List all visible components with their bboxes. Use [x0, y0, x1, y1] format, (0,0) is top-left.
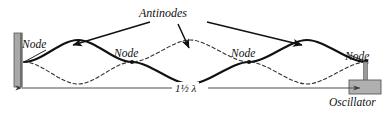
- label-oscillator: Oscillator: [329, 96, 376, 108]
- standing-wave-diagram: Antinodes Node Node Node Node Oscillator…: [0, 0, 389, 113]
- node-marker: [247, 60, 251, 64]
- oscillator-stem: [363, 62, 367, 82]
- antinode-arrow-right: [207, 22, 302, 45]
- antinode-arrow-middle: [178, 24, 189, 48]
- wave-curve-dashed: [24, 40, 366, 84]
- label-node-right: Node: [345, 50, 369, 62]
- oscillator-body: [349, 80, 381, 94]
- antinode-arrow-left: [73, 22, 150, 45]
- label-node-mid-left: Node: [114, 47, 138, 59]
- label-wavelength: 1½ λ: [172, 82, 199, 94]
- label-antinodes: Antinodes: [139, 6, 187, 21]
- wave-curve-solid: [24, 40, 366, 84]
- label-node-mid-right: Node: [231, 47, 255, 59]
- node-marker: [130, 60, 134, 64]
- label-node-left: Node: [22, 38, 46, 50]
